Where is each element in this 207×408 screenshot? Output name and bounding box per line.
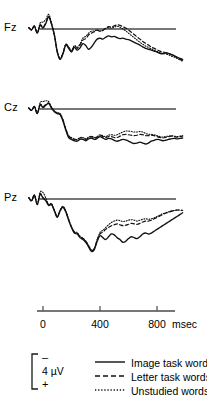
legend-label-letter-task-words: Letter task words [131, 371, 207, 383]
legend-line-samples [95, 362, 125, 390]
waveform-pz-letter-task-words [29, 194, 183, 251]
scale-bar-bracket [32, 354, 38, 389]
scale-bar-negative-sign: – [42, 352, 48, 363]
waveform-pz-image-task-words [29, 194, 183, 251]
erp-figure [0, 0, 207, 408]
channel-label-pz: Pz [4, 191, 17, 203]
waveform-cz-unstudied-words [29, 101, 183, 140]
legend-label-image-task-words: Image task words [131, 357, 207, 369]
waveform-group-pz [29, 191, 183, 251]
time-axis [37, 306, 175, 311]
waveform-group-fz [29, 14, 183, 61]
waveform-fz-image-task-words [29, 17, 183, 59]
axis-tick-label-400: 400 [86, 318, 114, 330]
axis-tick-label-800: 800 [143, 318, 171, 330]
waveform-group-cz [29, 101, 183, 144]
channel-label-fz: Fz [4, 21, 17, 33]
scale-bar-positive-sign: + [42, 379, 48, 390]
axis-tick-label-0: 0 [33, 318, 53, 330]
channel-label-cz: Cz [4, 101, 18, 113]
scale-bracket-path [32, 354, 38, 389]
scale-bar-value: 4 µV [42, 365, 64, 377]
legend-label-unstudied-words: Unstudied words [131, 385, 207, 397]
axis-unit-label: msec [172, 318, 197, 330]
waveform-pz-unstudied-words [29, 191, 183, 250]
